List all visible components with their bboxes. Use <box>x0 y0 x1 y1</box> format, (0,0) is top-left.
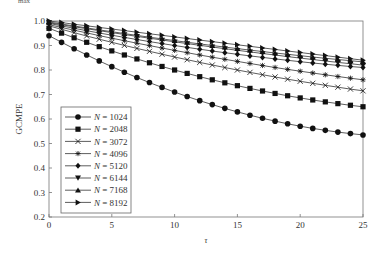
star-marker-icon <box>298 69 303 74</box>
x-tick-label: 10 <box>170 220 180 230</box>
x-tick-label: 0 <box>47 220 52 230</box>
circle-marker-icon <box>260 115 266 121</box>
star-marker-icon <box>310 70 315 75</box>
circle-marker-icon <box>172 89 178 95</box>
star-marker-icon <box>348 76 353 81</box>
square-marker-icon <box>197 74 202 79</box>
square-marker-icon <box>147 60 152 65</box>
square-marker-icon <box>122 52 127 57</box>
square-marker-icon <box>185 71 190 76</box>
square-marker-icon <box>97 44 102 49</box>
circle-marker-icon <box>197 98 203 104</box>
y-tick-label: 0.9 <box>34 41 46 51</box>
circle-marker-icon <box>235 109 241 115</box>
series-line <box>49 25 363 80</box>
x-tick-label: 5 <box>110 220 115 230</box>
star-marker-icon <box>247 61 252 66</box>
legend-label: N = 4096 <box>93 149 128 159</box>
line-chart: 0.20.30.40.50.60.70.80.91.00510152025τGC… <box>0 0 381 253</box>
circle-marker-icon <box>297 123 303 129</box>
y-tick-label: 0.6 <box>34 114 46 124</box>
legend-label: N = 6144 <box>93 173 128 183</box>
square-icon <box>75 127 80 132</box>
y-tick-label: 1.0 <box>34 16 46 26</box>
square-marker-icon <box>360 104 365 109</box>
square-marker-icon <box>222 80 227 85</box>
square-marker-icon <box>84 40 89 45</box>
star-marker-icon <box>272 65 277 70</box>
circle-marker-icon <box>222 106 228 112</box>
square-marker-icon <box>72 35 77 40</box>
y-tick-label: 0.8 <box>34 65 46 75</box>
legend-label: N = 5120 <box>93 161 128 171</box>
circle-marker-icon <box>71 46 77 52</box>
star-marker-icon <box>335 74 340 79</box>
star-marker-icon <box>260 63 265 68</box>
star-marker-icon <box>285 67 290 72</box>
circle-marker-icon <box>122 69 128 75</box>
circle-marker-icon <box>348 131 354 137</box>
y-axis-label: GCMPE <box>14 103 24 135</box>
star-marker-icon <box>197 52 202 57</box>
square-marker-icon <box>235 83 240 88</box>
star-icon <box>75 151 80 156</box>
x-marker-icon <box>122 43 127 48</box>
circle-marker-icon <box>134 75 140 81</box>
square-marker-icon <box>210 77 215 82</box>
legend-label: N = 8192 <box>93 198 128 208</box>
y-tick-label: 0.4 <box>34 163 46 173</box>
legend-label: N = 7168 <box>93 185 128 195</box>
circle-marker-icon <box>184 94 190 100</box>
circle-marker-icon <box>109 64 115 70</box>
star-marker-icon <box>323 72 328 77</box>
star-marker-icon <box>222 57 227 62</box>
series-line <box>49 26 363 91</box>
series-line <box>49 21 363 60</box>
square-marker-icon <box>172 67 177 72</box>
circle-marker-icon <box>323 128 329 134</box>
star-marker-icon <box>360 77 365 82</box>
circle-marker-icon <box>247 112 253 118</box>
square-marker-icon <box>109 48 114 53</box>
circle-marker-icon <box>310 126 316 132</box>
circle-marker-icon <box>209 102 215 108</box>
circle-marker-icon <box>335 129 341 135</box>
circle-marker-icon <box>159 85 165 91</box>
square-marker-icon <box>134 56 139 61</box>
star-marker-icon <box>235 59 240 64</box>
circle-marker-icon <box>84 52 90 58</box>
circle-marker-icon <box>59 40 65 46</box>
y-tick-label: 0.7 <box>34 90 46 100</box>
x-axis-label: τ <box>205 236 209 245</box>
square-marker-icon <box>159 64 164 69</box>
circle-marker-icon <box>272 118 278 124</box>
square-marker-icon <box>247 86 252 91</box>
circle-marker-icon <box>285 121 291 127</box>
circle-marker-icon <box>147 80 153 86</box>
circle-marker-icon <box>96 58 102 64</box>
y-tick-label: 0.2 <box>34 212 45 222</box>
x-tick-label: 15 <box>233 220 243 230</box>
legend-label: N = 2048 <box>93 124 128 134</box>
square-marker-icon <box>323 99 328 104</box>
star-marker-icon <box>185 50 190 55</box>
square-marker-icon <box>348 103 353 108</box>
square-marker-icon <box>310 97 315 102</box>
circle-icon <box>75 114 81 120</box>
square-marker-icon <box>335 101 340 106</box>
x-marker-icon <box>134 46 139 51</box>
star-marker-icon <box>210 55 215 60</box>
star-marker-icon <box>172 48 177 53</box>
legend-label: N = 3072 <box>93 137 128 147</box>
x-tick-label: 20 <box>296 220 306 230</box>
series-line <box>49 28 363 107</box>
legend-label: N = 1024 <box>93 112 128 122</box>
circle-marker-icon <box>360 132 366 138</box>
x-tick-label: 25 <box>359 220 369 230</box>
y-tick-label: 0.5 <box>34 139 46 149</box>
square-marker-icon <box>298 95 303 100</box>
square-marker-icon <box>272 91 277 96</box>
y-tick-label: 0.3 <box>34 188 46 198</box>
square-marker-icon <box>260 88 265 93</box>
circle-marker-icon <box>46 33 52 39</box>
